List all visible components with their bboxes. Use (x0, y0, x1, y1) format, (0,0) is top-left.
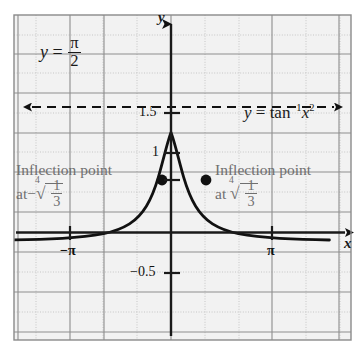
inflection-right-at: at (215, 184, 226, 201)
asymptote-label: y = π 2 (40, 36, 82, 71)
math-figure: y = π 2 y = tan−1x2 y x 1.5 1 −0.5 −π π … (0, 0, 364, 352)
inflection-left-line1: Inflection point (16, 162, 112, 178)
inflection-annotation-right: Inflection point at 4 √ 1 3 (215, 162, 311, 210)
asymptote-label-y: y (40, 42, 48, 62)
inflection-right-line2: at 4 √ 1 3 (215, 180, 311, 210)
x-tick-label-pi: π (267, 244, 275, 258)
fourth-root-radical-right: 4 √ 1 3 (230, 180, 258, 210)
radicand-numerator-right: 1 (245, 178, 256, 194)
one-third-fraction-right: 1 3 (245, 178, 256, 208)
radicand-denominator-right: 3 (245, 194, 256, 209)
one-third-fraction-left: 1 3 (51, 178, 62, 208)
y-tick-label-neg-0-5: −0.5 (130, 265, 155, 279)
curve-label-tan: tan (270, 103, 291, 122)
inflection-left-line2: at− 4 √ 1 3 (16, 180, 112, 210)
radical-sign-right: √ (230, 183, 240, 202)
pi-numerator: π (68, 35, 80, 53)
y-axis-label: y (158, 10, 165, 25)
y-tick-label-1-5: 1.5 (139, 105, 157, 119)
root-index-right: 4 (229, 175, 234, 185)
inflection-left-sign: − (27, 184, 36, 201)
root-index-left: 4 (35, 175, 40, 185)
x-tick-label-neg-pi: −π (60, 244, 76, 258)
x-axis-label: x (344, 236, 352, 251)
y-tick-label-1: 1 (152, 145, 159, 159)
curve-label-inverse-exponent: −1 (290, 102, 301, 113)
inflection-dot-right (201, 175, 212, 186)
radicand-denominator-left: 3 (51, 194, 62, 209)
pi-over-two-fraction: π 2 (68, 35, 80, 70)
curve-label-y: y (244, 103, 252, 122)
inflection-annotation-left: Inflection point at− 4 √ 1 3 (16, 162, 112, 210)
curve-label: y = tan−1x2 (244, 104, 314, 121)
curve-label-variable-exponent: 2 (309, 102, 314, 113)
radicand-numerator-left: 1 (51, 178, 62, 194)
asymptote-label-equals: = (53, 42, 63, 62)
fourth-root-radical-left: 4 √ 1 3 (36, 180, 64, 210)
inflection-left-at: at (16, 184, 27, 201)
curve-label-equals: = (256, 103, 266, 122)
two-denominator: 2 (68, 53, 80, 70)
